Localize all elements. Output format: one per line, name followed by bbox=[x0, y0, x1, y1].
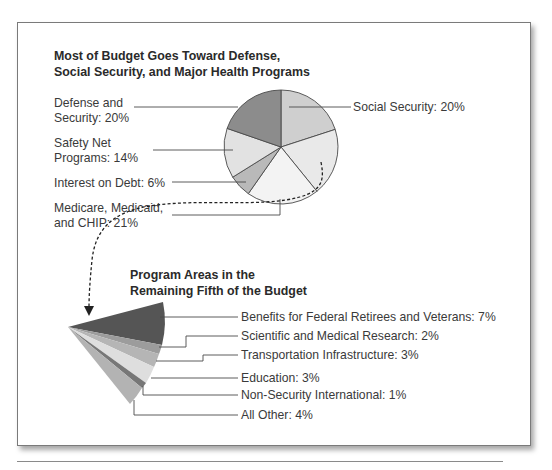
arrowhead-icon bbox=[84, 306, 94, 316]
label-research: Scientific and Medical Research: 2% bbox=[241, 329, 439, 343]
label-safety-net-line-1: Safety Net bbox=[54, 136, 112, 150]
leader-transportation bbox=[156, 355, 238, 361]
bottom-divider bbox=[17, 461, 503, 462]
label-international: Non-Security International: 1% bbox=[241, 388, 406, 402]
label-defense-line-1: Defense and bbox=[54, 96, 123, 110]
leader-international bbox=[143, 386, 238, 395]
label-social-security: Social Security: 20% bbox=[353, 100, 465, 114]
top-chart-title-line-1: Most of Budget Goes Toward Defense, bbox=[54, 49, 280, 63]
label-defense-line-2: Security: 20% bbox=[54, 111, 129, 125]
label-benefits: Benefits for Federal Retirees and Vetera… bbox=[241, 310, 496, 324]
top-chart-title-line-2: Social Security, and Major Health Progra… bbox=[54, 65, 310, 79]
label-safety-net-line-2: Programs: 14% bbox=[54, 151, 138, 165]
label-medicare-line-2: and CHIP: 21% bbox=[54, 216, 138, 230]
budget-chart: Most of Budget Goes Toward Defense, Soci… bbox=[0, 0, 552, 470]
label-medicare-line-1: Medicare, Medicaid, bbox=[54, 201, 163, 215]
leader-research bbox=[159, 336, 238, 347]
label-interest: Interest on Debt: 6% bbox=[54, 176, 165, 190]
leader-all-other bbox=[134, 400, 238, 415]
bottom-fan bbox=[68, 302, 165, 404]
label-transportation: Transportation Infrastructure: 3% bbox=[241, 348, 419, 362]
label-education: Education: 3% bbox=[241, 371, 320, 385]
bottom-chart-title-line-1: Program Areas in the bbox=[130, 268, 255, 282]
label-all-other: All Other: 4% bbox=[241, 408, 313, 422]
bottom-chart-title-line-2: Remaining Fifth of the Budget bbox=[130, 284, 307, 298]
